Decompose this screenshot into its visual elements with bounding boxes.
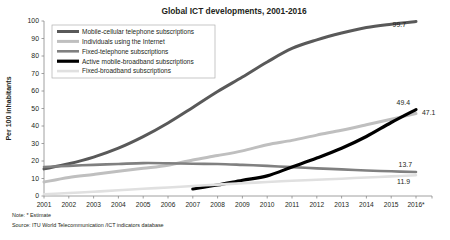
y-tick-label: 20 — [31, 157, 39, 164]
legend-label-0: Mobile-cellular telephone subscriptions — [82, 28, 195, 36]
legend-label-4: Fixed-broadband subscriptions — [82, 67, 172, 75]
legend-label-1: Individuals using the Internet — [82, 38, 165, 46]
legend-label-2: Fixed-telephone subscriptions — [82, 48, 169, 56]
x-tick-label: 2014 — [359, 201, 374, 208]
y-tick-label: 100 — [28, 17, 40, 24]
series-line-1 — [44, 114, 416, 182]
y-tick-label: 60 — [31, 87, 39, 94]
x-tick-label: 2001 — [37, 201, 52, 208]
x-tick-label: 2009 — [235, 201, 250, 208]
series-line-4 — [44, 175, 416, 194]
y-tick-label: 10 — [31, 175, 39, 182]
x-tick-label: 2004 — [111, 201, 126, 208]
x-tick-label: 2007 — [185, 201, 200, 208]
y-axis-title: Per 100 inhabitants — [5, 76, 12, 140]
data-label-4: 11.9 — [397, 178, 410, 185]
chart-container: Global ICT developments, 2001-2016010203… — [0, 0, 450, 240]
y-tick-label: 30 — [31, 140, 39, 147]
data-label-0: 99.7 — [393, 21, 407, 28]
x-tick-label: 2012 — [309, 201, 324, 208]
data-label-1: 47.1 — [422, 109, 436, 116]
data-label-2: 13.7 — [399, 161, 413, 168]
y-tick-label: 0 — [35, 192, 39, 199]
x-tick-label: 2002 — [61, 201, 76, 208]
x-tick-label: 2005 — [136, 201, 151, 208]
legend-label-3: Active mobile-broadband subscriptions — [82, 58, 194, 66]
x-tick-label: 2010 — [260, 201, 275, 208]
y-tick-label: 70 — [31, 70, 39, 77]
x-tick-label: 2008 — [210, 201, 225, 208]
note-text: Note: * Estimate — [12, 212, 51, 218]
x-tick-label: 2015 — [384, 201, 399, 208]
source-text: Source: ITU World Telecommunication /ICT… — [12, 222, 164, 228]
x-tick-label: 2016* — [407, 201, 425, 208]
ict-line-chart: Global ICT developments, 2001-2016010203… — [0, 0, 450, 240]
data-label-3: 49.4 — [397, 99, 411, 106]
y-tick-label: 80 — [31, 52, 39, 59]
x-tick-label: 2003 — [86, 201, 101, 208]
x-tick-label: 2006 — [161, 201, 176, 208]
series-line-2 — [44, 163, 416, 172]
chart-title: Global ICT developments, 2001-2016 — [161, 6, 307, 16]
x-tick-label: 2013 — [334, 201, 349, 208]
y-tick-label: 90 — [31, 35, 39, 42]
y-tick-label: 50 — [31, 105, 39, 112]
x-tick-label: 2011 — [285, 201, 300, 208]
y-tick-label: 40 — [31, 122, 39, 129]
